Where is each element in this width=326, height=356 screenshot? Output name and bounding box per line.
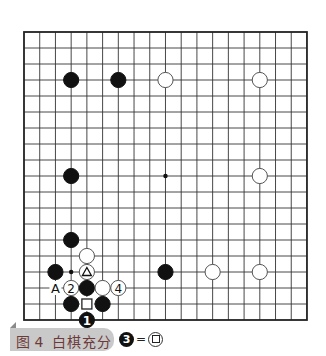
move-legend: 3 = bbox=[119, 330, 163, 348]
white-stone bbox=[79, 248, 94, 263]
figure-number: 图 4 bbox=[16, 331, 43, 351]
equals-sign: = bbox=[135, 332, 147, 346]
white-stone bbox=[205, 264, 220, 279]
black-stone bbox=[48, 264, 63, 279]
black-stone bbox=[95, 296, 110, 311]
black-stone-icon: 3 bbox=[119, 332, 134, 347]
white-stone bbox=[158, 72, 173, 87]
black-stone bbox=[64, 168, 79, 183]
black-stone bbox=[158, 264, 173, 279]
black-stone bbox=[64, 72, 79, 87]
move-number-2: 2 bbox=[67, 282, 75, 296]
figure-title: 白棋充分 bbox=[52, 331, 112, 351]
white-stone bbox=[252, 72, 267, 87]
star-point bbox=[163, 174, 167, 178]
black-stone bbox=[111, 72, 126, 87]
star-point bbox=[69, 270, 73, 274]
white-stone bbox=[95, 280, 110, 295]
point-label-a: A bbox=[51, 281, 60, 296]
white-stone bbox=[252, 168, 267, 183]
move-number-1: 1 bbox=[83, 314, 91, 328]
black-stone bbox=[64, 232, 79, 247]
move-number-4: 4 bbox=[114, 282, 122, 296]
go-board: A241 bbox=[0, 0, 326, 356]
black-stone bbox=[79, 280, 94, 295]
black-stone bbox=[64, 296, 79, 311]
square-mark-icon bbox=[148, 332, 163, 347]
white-stone bbox=[252, 264, 267, 279]
